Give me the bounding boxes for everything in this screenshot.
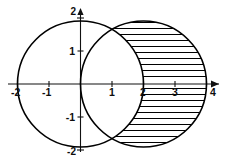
hatch-lines bbox=[70, 23, 215, 148]
x-tick-label-pos4: 4 bbox=[210, 86, 216, 98]
figure-container: -2 -1 1 2 3 4 2 1 -1 -2 bbox=[0, 0, 229, 162]
y-axis-arrow-icon bbox=[77, 8, 83, 15]
x-tick-label-neg2: -2 bbox=[11, 86, 20, 98]
x-tick-label-neg1: -1 bbox=[42, 86, 51, 98]
y-tick-label-pos1: 1 bbox=[69, 45, 75, 57]
x-tick-label-pos1: 1 bbox=[109, 86, 115, 98]
two-circles-diagram: -2 -1 1 2 3 4 2 1 -1 -2 bbox=[0, 0, 229, 162]
y-tick-label-pos2: 2 bbox=[70, 6, 76, 17]
x-tick-label-pos3: 3 bbox=[172, 86, 178, 98]
x-tick-label-pos2: 2 bbox=[140, 87, 146, 98]
y-tick-label-neg1: -1 bbox=[66, 111, 75, 123]
y-tick-label-neg2: -2 bbox=[67, 146, 76, 157]
shaded-lune-region bbox=[70, 23, 215, 148]
